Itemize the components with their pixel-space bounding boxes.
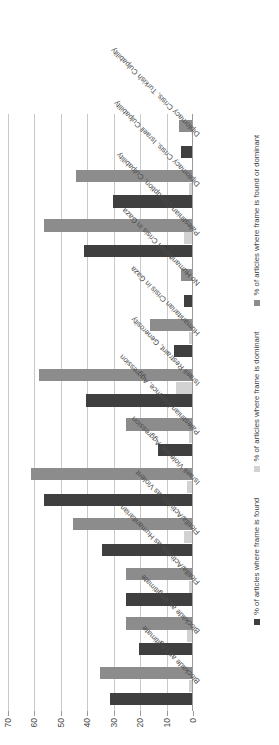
- legend-swatch-icon: [254, 466, 260, 472]
- bar: [39, 369, 192, 381]
- axis-tick: [167, 711, 168, 716]
- rotated-figure-wrapper: 010203040506070 Blockade as LegitimateBl…: [0, 0, 279, 745]
- axis-tick-label: 50: [57, 718, 65, 742]
- bar: [44, 220, 192, 232]
- bar: [31, 468, 192, 480]
- legend-item: % of articles where frame is found or do…: [252, 135, 261, 306]
- axis-tick-label: 30: [110, 718, 118, 742]
- legend-label: % of articles where frame is found: [252, 498, 261, 615]
- bar: [181, 146, 192, 158]
- axis-tick: [61, 711, 62, 716]
- bar: [184, 295, 192, 307]
- bar: [176, 382, 192, 394]
- axis-tick: [34, 711, 35, 716]
- axis-tick-label: 0: [189, 718, 197, 742]
- axis-tick-label: 10: [163, 718, 171, 742]
- axis-tick: [193, 711, 194, 716]
- legend-swatch-icon: [254, 300, 260, 306]
- legend-item: % of articles where frame is dominant: [252, 332, 261, 472]
- legend-label: % of articles where frame is dominant: [252, 332, 261, 462]
- axis-tick-label: 60: [30, 718, 38, 742]
- legend-item: % of articles where frame is found: [252, 498, 261, 625]
- bar: [113, 195, 192, 207]
- chart-page: 010203040506070 Blockade as LegitimateBl…: [0, 0, 279, 745]
- axis-tick-label: 70: [4, 718, 12, 742]
- bar-chart-figure: 010203040506070 Blockade as LegitimateBl…: [0, 0, 279, 745]
- bar: [102, 544, 192, 556]
- chart-legend: % of articles where frame is found% of a…: [252, 135, 261, 625]
- legend-swatch-icon: [254, 619, 260, 625]
- axis-tick: [8, 711, 9, 716]
- axis-tick: [114, 711, 115, 716]
- axis-tick: [140, 711, 141, 716]
- legend-label: % of articles where frame is found or do…: [252, 135, 261, 296]
- bar-group: [8, 667, 192, 705]
- axis-tick: [87, 711, 88, 716]
- axis-tick-label: 40: [83, 718, 91, 742]
- bar: [110, 693, 192, 705]
- axis-tick-label: 20: [136, 718, 144, 742]
